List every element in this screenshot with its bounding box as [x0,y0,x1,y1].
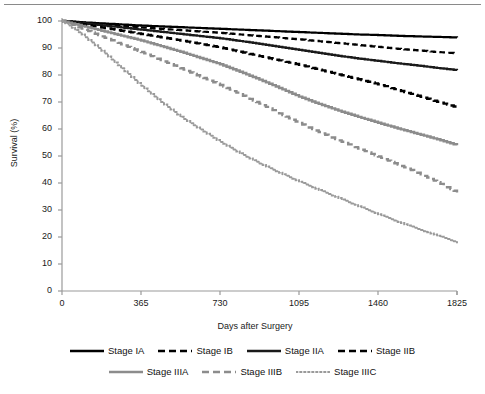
x-tick-label: 1460 [358,298,398,308]
series-line-stage-iiib [62,21,457,192]
chart-legend: Stage IAStage IBStage IIAStage IIBStage … [0,340,485,382]
x-tick-label: 1095 [279,298,319,308]
x-tick-label: 0 [42,298,82,308]
series-line-stage-ib [62,21,457,53]
series-line-stage-iia [62,21,457,70]
y-tick-label: 30 [26,204,52,214]
y-tick-label: 20 [26,231,52,241]
legend-swatch-solid [70,346,104,356]
legend-swatch-solid [247,346,281,356]
x-tick-label: 365 [121,298,161,308]
series-line-stage-iiia [62,21,457,145]
y-tick-label: 60 [26,123,52,133]
legend-row-1: Stage IAStage IBStage IIAStage IIB [0,340,485,361]
y-tick-label: 80 [26,69,52,79]
legend-label: Stage IB [196,345,232,356]
legend-row-2: Stage IIIAStage IIIBStage IIIC [0,361,485,382]
legend-label: Stage IIIA [147,366,189,377]
legend-item-stage-iiib[interactable]: Stage IIIB [202,366,282,377]
x-tick-label: 730 [200,298,240,308]
legend-swatch-dashed [202,367,236,377]
legend-item-stage-ia[interactable]: Stage IA [70,345,144,356]
survival-chart-figure: Survival (%) Days after Surgery 01020304… [0,0,485,394]
legend-swatch-solid [109,367,143,377]
legend-label: Stage IIA [285,345,324,356]
legend-label: Stage IIIB [240,366,282,377]
legend-item-stage-iib[interactable]: Stage IIB [338,345,415,356]
legend-item-stage-ib[interactable]: Stage IB [158,345,232,356]
y-tick-label: 0 [26,285,52,295]
legend-label: Stage IA [108,345,144,356]
y-tick-label: 100 [26,15,52,25]
legend-swatch-dashed [338,346,372,356]
y-tick-label: 90 [26,42,52,52]
y-tick-label: 10 [26,258,52,268]
x-axis-label: Days after Surgery [165,321,345,331]
legend-item-stage-iia[interactable]: Stage IIA [247,345,324,356]
y-tick-label: 70 [26,96,52,106]
survival-plot-canvas [0,0,485,394]
y-tick-label: 50 [26,150,52,160]
y-axis-label: Survival (%) [9,108,19,178]
legend-item-stage-iiia[interactable]: Stage IIIA [109,366,189,377]
legend-swatch-dotted [296,367,330,377]
legend-label: Stage IIB [376,345,415,356]
x-tick-label: 1825 [437,298,477,308]
legend-label: Stage IIIC [334,366,376,377]
legend-swatch-dashed [158,346,192,356]
y-tick-label: 40 [26,177,52,187]
legend-item-stage-iiic[interactable]: Stage IIIC [296,366,376,377]
